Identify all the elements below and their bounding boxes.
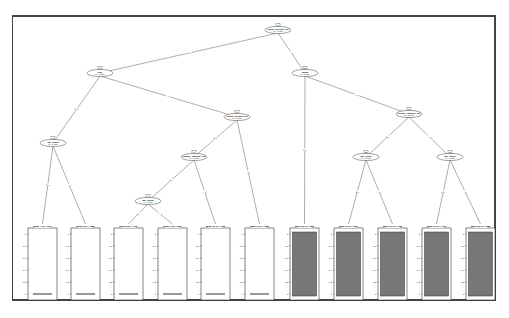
node-pvalue: p < 0.001 — [361, 157, 371, 159]
leaf-title: Node 16 (n = 224) — [339, 225, 359, 228]
leaf-node: Node 9 (n = 136)10.80.60.40.20° — [153, 225, 187, 300]
node-pvalue: p < 0.001 — [232, 117, 242, 119]
leaf-node: Node 16 (n = 224)10.80.60.40.20 — [329, 225, 363, 300]
leaf-title: Node 20 (n = 158) — [471, 225, 491, 228]
leaf-node: Node 20 (n = 158)10.80.60.40.20 — [461, 225, 495, 300]
y-tick-label: 0.4 — [417, 269, 421, 272]
node-pvalue: p < 0.001 — [95, 73, 105, 75]
leaf-node: Node 17 (n = 135)10.80.60.40.20 — [373, 225, 407, 300]
y-tick-label: 0 — [287, 293, 289, 296]
y-tick-label: 0.2 — [23, 281, 27, 284]
y-tick-label: 1 — [331, 233, 333, 236]
y-tick-label: 0.8 — [66, 245, 70, 248]
leaf-node: Node 4 (n = 107)10.80.60.40.20° — [23, 225, 57, 300]
decision-tree-diagram: ≤ 0> 0≤ 0> 0≤ 0> 0≤ 0> 0≤ 0> 0≤ 0> 0≤ 0>… — [0, 0, 509, 318]
leaf-node: Node 19 (n = 171)10.80.60.40.20 — [417, 225, 451, 300]
y-tick-label: 0.6 — [196, 257, 200, 260]
y-tick-label: 0.4 — [196, 269, 200, 272]
leaf-node: Node 8 (n = 175)10.80.60.40.20° — [109, 225, 143, 300]
y-tick-label: 0.4 — [285, 269, 289, 272]
leaf-node: Node 5 (n = 168)10.80.60.40.20° — [66, 225, 100, 300]
inner-node: 5region_selected_catp < 0.001 — [224, 111, 250, 121]
y-tick-label: 0 — [242, 293, 244, 296]
leaf-panel — [245, 228, 274, 300]
y-tick-label: 0.8 — [109, 245, 113, 248]
y-tick-label: 1 — [375, 233, 377, 236]
y-tick-label: 0.8 — [196, 245, 200, 248]
y-tick-label: 0 — [463, 293, 465, 296]
y-tick-label: 0.2 — [66, 281, 70, 284]
node-pvalue: p < 0.001 — [445, 157, 455, 159]
leaf-outlier-mark: ° — [85, 233, 86, 236]
y-tick-label: 0.2 — [461, 281, 465, 284]
leaf-node: Node 10 (n = 195)10.80.60.40.20° — [196, 225, 230, 300]
y-tick-label: 0.6 — [66, 257, 70, 260]
node-pvalue: p < 0.001 — [404, 114, 414, 116]
y-tick-label: 0 — [111, 293, 113, 296]
leaf-panel — [158, 228, 187, 300]
inner-node: 18age_groupp < 0.001 — [437, 151, 463, 161]
y-tick-label: 0.2 — [417, 281, 421, 284]
y-tick-label: 1 — [198, 233, 200, 236]
y-tick-label: 1 — [111, 233, 113, 236]
leaf-title: Node 17 (n = 135) — [383, 225, 403, 228]
y-tick-label: 0.4 — [23, 269, 27, 272]
node-pvalue: p < 0.001 — [48, 143, 58, 145]
y-tick-label: 1 — [463, 233, 465, 236]
leaf-outlier-mark: ° — [259, 233, 260, 236]
leaf-panel — [28, 228, 57, 300]
y-tick-label: 1 — [25, 233, 27, 236]
y-tick-label: 0.6 — [240, 257, 244, 260]
y-tick-label: 0.4 — [329, 269, 333, 272]
y-tick-label: 0.6 — [285, 257, 289, 260]
y-tick-label: 0.2 — [329, 281, 333, 284]
y-tick-label: 0.6 — [461, 257, 465, 260]
y-tick-label: 0.2 — [109, 281, 113, 284]
leaf-bar — [337, 232, 361, 296]
leaf-outlier-mark: ° — [42, 233, 43, 236]
leaf-title: Node 10 (n = 195) — [206, 225, 226, 228]
y-tick-label: 0.8 — [329, 245, 333, 248]
y-tick-label: 0.8 — [461, 245, 465, 248]
node-pvalue: p < 0.001 — [143, 201, 153, 203]
leaf-node: Node 13 (n = 186)10.80.60.40.20 — [285, 225, 319, 300]
inner-node: 3age_groupp < 0.001 — [40, 137, 66, 147]
edges: ≤ 0> 0≤ 0> 0≤ 0> 0≤ 0> 0≤ 0> 0≤ 0> 0≤ 0>… — [43, 33, 481, 224]
leaf-panel — [71, 228, 100, 300]
y-tick-label: 0.2 — [285, 281, 289, 284]
leaf-title: Node 19 (n = 171) — [427, 225, 447, 228]
y-tick-label: 1 — [419, 233, 421, 236]
leaf-title: Node 9 (n = 136) — [163, 225, 182, 228]
y-tick-label: 0.8 — [23, 245, 27, 248]
y-tick-label: 0 — [25, 293, 27, 296]
y-tick-label: 0 — [331, 293, 333, 296]
y-tick-label: 1 — [242, 233, 244, 236]
y-tick-label: 0.4 — [240, 269, 244, 272]
leaf-title: Node 4 (n = 107) — [33, 225, 52, 228]
y-tick-label: 1 — [155, 233, 157, 236]
y-tick-label: 0.6 — [153, 257, 157, 260]
y-tick-label: 0.8 — [153, 245, 157, 248]
inner-node: 15age_groupp < 0.001 — [353, 151, 379, 161]
y-tick-label: 0.6 — [109, 257, 113, 260]
y-tick-label: 0.4 — [461, 269, 465, 272]
leaf-title: Node 13 (n = 186) — [295, 225, 315, 228]
leaf-title: Node 11 (n = 153) — [250, 225, 270, 228]
y-tick-label: 0.4 — [66, 269, 70, 272]
leaf-outlier-mark: ° — [128, 233, 129, 236]
y-tick-label: 0.8 — [285, 245, 289, 248]
inner-node: 7age_groupp < 0.001 — [135, 195, 161, 205]
leaf-title: Node 5 (n = 168) — [76, 225, 95, 228]
y-tick-label: 0.8 — [417, 245, 421, 248]
leaf-bar — [425, 232, 449, 296]
leaf-bar — [381, 232, 405, 296]
leaf-outlier-mark: ° — [215, 233, 216, 236]
node-pvalue: p < 0.001 — [273, 30, 283, 32]
y-tick-label: 0.6 — [329, 257, 333, 260]
y-tick-label: 0.8 — [240, 245, 244, 248]
leaf-panel — [201, 228, 230, 300]
inner-node: 14income_category_catp < 0.001 — [396, 108, 422, 118]
y-tick-label: 1 — [68, 233, 70, 236]
leaf-node: Node 11 (n = 153)10.80.60.40.20° — [240, 225, 274, 300]
y-tick-label: 0.4 — [153, 269, 157, 272]
